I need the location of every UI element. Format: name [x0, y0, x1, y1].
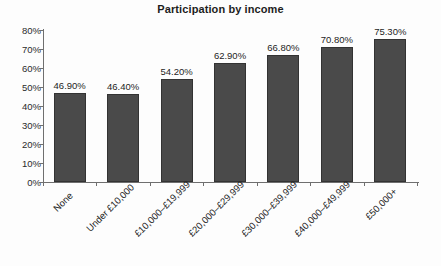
y-axis-tick-mark	[39, 87, 43, 88]
bar[interactable]	[267, 55, 299, 182]
bar-slot: 46.90%	[54, 30, 86, 182]
x-axis-category-label: £50,000+	[363, 186, 399, 222]
x-axis-line	[43, 182, 419, 183]
bar-slot: 70.80%	[321, 30, 353, 182]
bar-value-label: 46.90%	[40, 80, 100, 91]
x-axis-category-label: £20,000–£29,999	[186, 179, 246, 239]
x-axis-tick-mark	[257, 182, 258, 186]
bar-value-label: 54.20%	[147, 66, 207, 77]
y-axis-tick-mark	[39, 125, 43, 126]
bar-slot: 75.30%	[374, 30, 406, 182]
y-axis: 0%10%20%30%40%50%60%70%80%	[0, 0, 41, 266]
bar-value-label: 70.80%	[307, 34, 367, 45]
bar-value-label: 66.80%	[253, 42, 313, 53]
bar[interactable]	[54, 93, 86, 182]
y-axis-tick-label: 70%	[3, 44, 41, 55]
bar-slot: 62.90%	[214, 30, 246, 182]
bar-value-label: 75.30%	[360, 26, 420, 37]
bar-slot: 46.40%	[107, 30, 139, 182]
y-axis-tick-label: 80%	[3, 25, 41, 36]
bar-value-label: 46.40%	[93, 81, 153, 92]
x-axis-tick-mark	[417, 182, 418, 186]
chart-title: Participation by income	[0, 3, 441, 15]
y-axis-tick-mark	[39, 30, 43, 31]
plot-area: 46.90%46.40%54.20%62.90%66.80%70.80%75.3…	[43, 30, 417, 182]
x-axis-category-label: £40,000–£49,999	[292, 179, 352, 239]
bar-slot: 66.80%	[267, 30, 299, 182]
x-axis-category-label: None	[51, 190, 75, 214]
x-axis-tick-mark	[96, 182, 97, 186]
bar[interactable]	[374, 39, 406, 182]
bar-chart: Participation by income 0%10%20%30%40%50…	[0, 0, 441, 266]
x-axis-tick-mark	[310, 182, 311, 186]
x-axis-category-label: £10,000–£19,999	[132, 179, 192, 239]
bar-slot: 54.20%	[161, 30, 193, 182]
y-axis-tick-label: 40%	[3, 101, 41, 112]
bar[interactable]	[107, 94, 139, 182]
y-axis-tick-label: 60%	[3, 63, 41, 74]
bar-value-label: 62.90%	[200, 50, 260, 61]
y-axis-tick-mark	[39, 163, 43, 164]
x-axis-tick-mark	[150, 182, 151, 186]
x-axis-category-label: £30,000–£39,999	[239, 179, 299, 239]
bar[interactable]	[321, 47, 353, 182]
y-axis-tick-label: 10%	[3, 158, 41, 169]
y-axis-tick-label: 30%	[3, 120, 41, 131]
y-axis-tick-mark	[39, 106, 43, 107]
y-axis-tick-mark	[39, 144, 43, 145]
x-axis-tick-mark	[364, 182, 365, 186]
y-axis-tick-mark	[39, 68, 43, 69]
x-axis-tick-mark	[203, 182, 204, 186]
x-axis-category-label: Under £10,000	[84, 181, 136, 233]
y-axis-tick-label: 0%	[3, 177, 41, 188]
bar[interactable]	[214, 63, 246, 183]
y-axis-tick-label: 50%	[3, 82, 41, 93]
y-axis-tick-label: 20%	[3, 139, 41, 150]
x-axis-tick-mark	[43, 182, 44, 186]
y-axis-tick-mark	[39, 49, 43, 50]
bar[interactable]	[161, 79, 193, 182]
